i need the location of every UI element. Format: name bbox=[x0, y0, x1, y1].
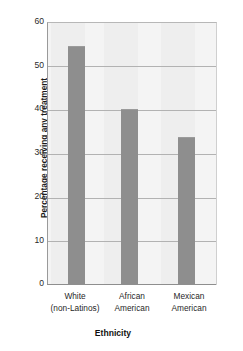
plot-area bbox=[47, 22, 217, 285]
x-label-mexican-american: Mexican American bbox=[154, 291, 224, 314]
bar-african-american bbox=[121, 109, 138, 285]
y-tick-50: 50 bbox=[4, 61, 44, 70]
y-tick-60: 60 bbox=[4, 17, 44, 26]
plot-inner bbox=[48, 23, 216, 285]
x-axis-line bbox=[47, 284, 216, 285]
x-axis-title: Ethnicity bbox=[0, 328, 226, 338]
y-tick-30: 30 bbox=[4, 148, 44, 157]
bar-white-non-latinos bbox=[68, 46, 85, 285]
bar-chart-figure: Percentage receiving any treatment 60 50… bbox=[0, 0, 243, 351]
x-label-line1: Mexican bbox=[154, 291, 224, 303]
x-axis-category-labels: White (non-Latinos) African American Mex… bbox=[40, 291, 220, 325]
y-tick-20: 20 bbox=[4, 192, 44, 201]
y-tick-0: 0 bbox=[4, 279, 44, 288]
y-tick-10: 10 bbox=[4, 236, 44, 245]
x-label-line2: American bbox=[154, 303, 224, 315]
y-tick-40: 40 bbox=[4, 104, 44, 113]
bar-mexican-american bbox=[178, 137, 195, 285]
